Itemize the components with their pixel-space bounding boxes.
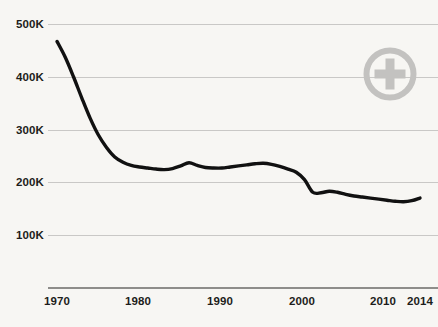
series-plot-area — [0, 0, 438, 327]
line-chart: 500K 400K 300K 200K 100K 1970 1980 1990 … — [0, 0, 438, 327]
series-line-value — [57, 41, 420, 201]
